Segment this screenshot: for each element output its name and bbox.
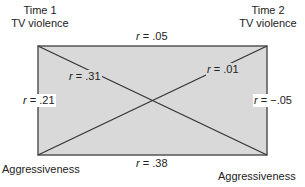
corr-value: = .21 [30,94,55,106]
node-time2-tv-violence: Time 2 TV violence [235,4,301,30]
corr-value: = .01 [214,63,239,75]
corr-value: = .38 [143,157,168,169]
node-line: Time 2 [235,4,301,17]
node-line: Time 1 [8,4,72,17]
r-symbol: r [136,30,140,42]
node-line: TV violence [8,17,72,30]
r-symbol: r [207,63,211,75]
corr-right: r = −.05 [253,94,293,107]
corr-top: r = .05 [136,30,168,43]
corr-value: = .05 [143,30,168,42]
corr-bottom: r = .38 [136,157,168,170]
r-symbol: r [136,157,140,169]
node-time1-tv-violence: Time 1 TV violence [8,4,72,30]
node-time2-aggressiveness: Aggressiveness [218,170,296,183]
r-symbol: r [254,94,258,106]
node-line: TV violence [235,17,301,30]
r-symbol: r [69,70,73,82]
corr-diag-tl-br: r = .31 [68,70,102,83]
corr-left: r = .21 [22,94,56,107]
corr-value: = .31 [76,70,101,82]
corr-value: = −.05 [261,94,292,106]
corr-diag-bl-tr: r = .01 [206,63,240,76]
r-symbol: r [23,94,27,106]
node-time1-aggressiveness: Aggressiveness [2,163,80,176]
